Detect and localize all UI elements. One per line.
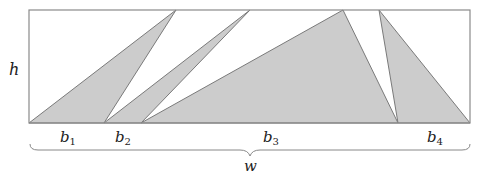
triangles [29,10,470,123]
diagram-canvas: h b1 b2 b3 b4 w [0,0,483,178]
label-b1: b1 [60,128,76,147]
label-b3: b3 [263,128,279,147]
label-w: w [244,157,257,175]
label-h: h [9,60,19,79]
label-b4: b4 [427,128,443,147]
width-brace [30,144,470,156]
triangle-b4 [379,10,470,123]
label-b2: b2 [115,128,131,147]
